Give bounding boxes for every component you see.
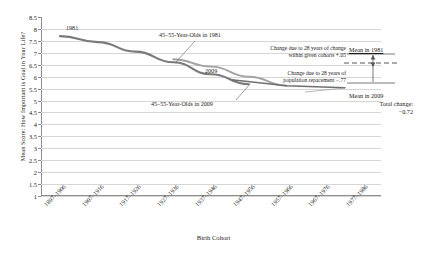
cohort-label-2009: 45–55-Year-Olds in 2009 (151, 101, 213, 107)
y-axis-tick-label: 6 (0, 73, 37, 80)
y-axis-tick-mark (38, 172, 41, 173)
mean-2009-label: Mean in 2009 (349, 92, 383, 99)
y-axis-tick-mark (38, 148, 41, 149)
y-axis-tick-mark (38, 101, 41, 102)
y-axis-tick-mark (38, 136, 41, 137)
series-label-1981: 1981 (66, 25, 78, 31)
y-axis-tick-label: 4 (0, 121, 37, 128)
gridline (41, 29, 381, 30)
y-axis-tick-mark (38, 124, 41, 125)
y-axis-tick-label: 4.5 (0, 109, 37, 116)
y-axis-tick-mark (38, 41, 41, 42)
y-axis-tick-label: 6.5 (0, 61, 37, 68)
within-cohort-note-line2: within given cohorts +.05 (258, 52, 346, 59)
population-replacement-note-line1: Change due to 28 years of (258, 70, 346, 77)
gridline (41, 41, 381, 42)
gridline (41, 148, 381, 149)
gridline (41, 124, 381, 125)
y-axis-tick-mark (38, 112, 41, 113)
total-change-line1: Total change: (349, 100, 413, 108)
series-label-2009: 2009 (205, 68, 217, 74)
y-axis-tick-label: 5.5 (0, 85, 37, 92)
x-axis-title: Birth Cohort (0, 234, 427, 241)
y-axis-tick-label: 8.5 (0, 14, 37, 21)
y-axis-tick-label: 8 (0, 25, 37, 32)
y-axis-tick-mark (38, 89, 41, 90)
gridline (41, 65, 381, 66)
mean-1981-label: Mean in 1981 (349, 46, 383, 53)
gridline (41, 89, 381, 90)
y-axis-tick-mark (38, 160, 41, 161)
gridline (41, 172, 381, 173)
gridline (41, 160, 381, 161)
population-replacement-note: Change due to 28 years of population rep… (258, 70, 346, 84)
y-axis-tick-label: 5 (0, 97, 37, 104)
y-axis-tick-mark (38, 17, 41, 18)
y-axis-tick-label: 1.5 (0, 181, 37, 188)
population-replacement-note-line2: population repacement −.77 (258, 77, 346, 84)
cohort-label-1981: 45–55-Year-Olds in 1981 (159, 32, 221, 38)
y-axis-line (41, 17, 42, 196)
y-axis-tick-mark (38, 77, 41, 78)
y-axis-tick-label: 2.5 (0, 157, 37, 164)
y-axis-tick-mark (38, 65, 41, 66)
y-axis-tick-mark (38, 29, 41, 30)
y-axis-tick-label: 7.5 (0, 37, 37, 44)
y-axis-tick-label: 3 (0, 145, 37, 152)
gridline (41, 136, 381, 137)
total-change-label: Total change: −0.72 (349, 100, 413, 115)
within-cohort-note: Change due to 28 years of change within … (258, 45, 346, 59)
total-change-line2: −0.72 (349, 108, 413, 116)
chart-figure: Mean Score: How Important is Goal in You… (0, 0, 427, 257)
gridline (41, 112, 381, 113)
y-axis-tick-mark (38, 53, 41, 54)
y-axis-tick-label: 7 (0, 49, 37, 56)
y-axis-tick-mark (38, 184, 41, 185)
y-axis-tick-label: 2 (0, 169, 37, 176)
within-cohort-note-line1: Change due to 28 years of change (258, 45, 346, 52)
y-axis-tick-label: 1 (0, 193, 37, 200)
y-axis-tick-mark (38, 196, 41, 197)
y-axis-tick-label: 3.5 (0, 133, 37, 140)
